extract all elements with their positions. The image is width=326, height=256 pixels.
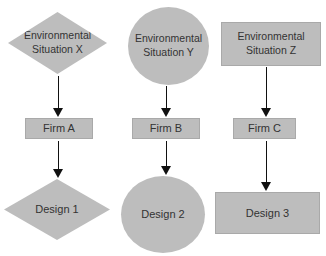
arrow-head-icon — [53, 108, 63, 117]
node-firm-b: Firm B — [132, 118, 200, 139]
node-design-2: Design 2 — [121, 176, 205, 253]
node-firm-a: Firm A — [25, 118, 93, 139]
node-firm-a-label: Firm A — [43, 121, 75, 135]
node-firm-b-label: Firm B — [150, 121, 182, 135]
flow-diagram: Environmental Situation X Firm A Design … — [0, 0, 326, 256]
node-situation-y-label: Environmental Situation Y — [128, 32, 209, 59]
node-situation-z: Environmental Situation Z — [221, 22, 321, 66]
arrow-shaft — [166, 141, 167, 167]
arrow-shaft — [58, 76, 59, 109]
arrow-shaft — [266, 141, 267, 183]
arrow-down-icon — [261, 67, 271, 117]
node-situation-y: Environmental Situation Y — [128, 7, 209, 85]
node-design-3-label: Design 3 — [246, 206, 289, 220]
node-situation-z-label: Environmental Situation Z — [228, 30, 314, 57]
arrow-head-icon — [261, 108, 271, 117]
node-firm-c: Firm C — [233, 118, 296, 139]
arrow-down-icon — [53, 76, 63, 117]
arrow-head-icon — [261, 182, 271, 191]
node-design-2-label: Design 2 — [141, 207, 184, 221]
arrow-shaft — [266, 67, 267, 109]
node-design-3: Design 3 — [215, 192, 320, 234]
node-design-1-label: Design 1 — [35, 202, 78, 216]
arrow-head-icon — [53, 169, 63, 178]
node-situation-x-label: Environmental Situation X — [15, 29, 101, 56]
arrow-down-icon — [261, 141, 271, 191]
node-firm-c-label: Firm C — [248, 121, 281, 135]
arrow-down-icon — [53, 141, 63, 178]
arrow-down-icon — [161, 141, 171, 175]
arrow-shaft — [58, 141, 59, 170]
arrow-head-icon — [161, 108, 171, 117]
node-design-1: Design 1 — [4, 179, 110, 240]
arrow-down-icon — [161, 86, 171, 117]
arrow-head-icon — [161, 166, 171, 175]
node-situation-x: Environmental Situation X — [8, 12, 107, 74]
arrow-shaft — [166, 86, 167, 109]
